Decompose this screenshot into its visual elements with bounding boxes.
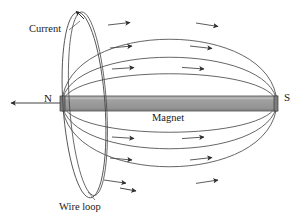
label-wire-loop: Wire loop — [59, 202, 101, 213]
label-current: Current — [29, 24, 61, 35]
bar-magnet — [62, 96, 277, 111]
current-leader-line — [69, 21, 80, 30]
label-magnet: Magnet — [152, 113, 184, 124]
label-south-pole: S — [284, 92, 290, 103]
field-line-upper-outer — [62, 23, 277, 104]
south-pole-cap — [274, 96, 278, 111]
wire-loop-field-arrow — [120, 188, 136, 191]
figure-canvas: Current N Magnet S Wire loop — [0, 0, 307, 224]
field-line-upper-middle — [62, 46, 277, 103]
label-north-pole: N — [44, 93, 52, 104]
